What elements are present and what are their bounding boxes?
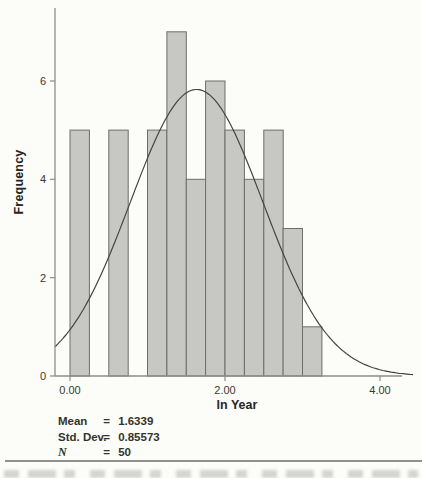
histogram-bar xyxy=(225,130,244,376)
histogram-bar xyxy=(264,130,283,376)
histogram-bar xyxy=(303,327,322,376)
y-tick-label: 4 xyxy=(40,173,46,185)
stat-row-mean: Mean = 1.6339 xyxy=(58,414,160,430)
histogram-bar xyxy=(70,130,89,376)
stat-value-mean: 1.6339 xyxy=(118,415,153,427)
equals-sign: = xyxy=(103,430,110,446)
stat-label-mean: Mean xyxy=(58,414,100,430)
stat-row-stddev: Std. Dev. = 0.85573 xyxy=(58,430,160,446)
stat-value-stddev: 0.85573 xyxy=(118,431,160,443)
stat-value-n: 50 xyxy=(118,446,131,458)
cutoff-text-remnant xyxy=(4,470,418,478)
y-tick-label: 6 xyxy=(40,75,46,87)
scanned-book-page: 02460.002.004.00 Frequency ln Year Mean … xyxy=(0,0,422,478)
histogram-bar xyxy=(167,32,186,376)
x-tick-label: 0.00 xyxy=(59,384,80,396)
histogram-chart: 02460.002.004.00 xyxy=(0,0,422,412)
histogram-bar xyxy=(186,179,205,376)
stat-label-stddev: Std. Dev. xyxy=(58,430,100,446)
histogram-bar xyxy=(244,179,263,376)
page-divider-line xyxy=(5,460,422,462)
y-tick-label: 2 xyxy=(40,272,46,284)
equals-sign: = xyxy=(103,414,110,430)
x-tick-label: 2.00 xyxy=(214,384,235,396)
histogram-bar xyxy=(148,130,167,376)
stats-legend: Mean = 1.6339 Std. Dev. = 0.85573 N = 50 xyxy=(58,414,160,461)
histogram-bar xyxy=(206,81,225,376)
y-tick-label: 0 xyxy=(40,370,46,382)
histogram-bar xyxy=(109,130,128,376)
histogram-bar xyxy=(283,229,302,377)
x-axis-label: ln Year xyxy=(217,398,258,412)
y-axis-label: Frequency xyxy=(12,149,26,214)
x-tick-label: 4.00 xyxy=(369,384,390,396)
equals-sign: = xyxy=(103,445,110,461)
stat-row-n: N = 50 xyxy=(58,445,160,461)
stat-label-n: N xyxy=(58,445,100,461)
